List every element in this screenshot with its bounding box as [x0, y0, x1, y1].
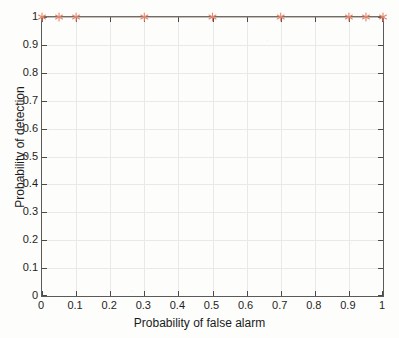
roc-chart-figure: 00.10.20.30.40.50.60.70.80.91 00.10.20.3… — [0, 0, 399, 338]
x-tick-label: 0.4 — [170, 299, 185, 311]
y-tick-label: 0 — [32, 289, 38, 301]
y-tick-label: 1 — [32, 10, 38, 22]
y-axis-title: Probability of detection — [13, 37, 27, 257]
x-tick-label: 0.7 — [272, 299, 287, 311]
y-tick-label: 0.1 — [23, 261, 38, 273]
x-tick-label: 0.8 — [306, 299, 321, 311]
x-axis-title: Probability of false alarm — [0, 316, 399, 330]
x-tick-label: 0.6 — [238, 299, 253, 311]
x-tick-label: 0.9 — [340, 299, 355, 311]
x-tick-label: 0.2 — [102, 299, 117, 311]
plot-area — [41, 16, 384, 297]
x-tick-label: 0.5 — [204, 299, 219, 311]
x-tick-label: 0.3 — [136, 299, 151, 311]
x-tick-label: 1 — [379, 299, 385, 311]
x-tick-label: 0.1 — [67, 299, 82, 311]
series-plot — [42, 17, 383, 296]
x-tick-label: 0 — [38, 299, 44, 311]
